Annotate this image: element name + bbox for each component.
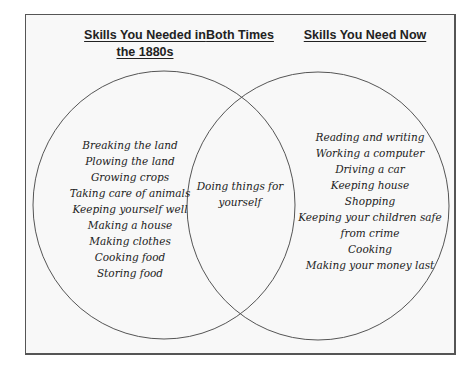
list-item: Cooking	[295, 241, 445, 257]
list-item: Keeping house	[295, 177, 445, 193]
list-item: Keeping your children safe	[295, 209, 445, 225]
list-item: Doing things for	[190, 178, 290, 194]
list-item: Storing food	[40, 265, 220, 281]
list-both-times: Doing things for yourself	[190, 178, 290, 210]
list-item: Cooking food	[40, 249, 220, 265]
list-now: Reading and writing Working a computer D…	[295, 129, 445, 273]
list-item: Breaking the land	[40, 137, 220, 153]
list-item: Working a computer	[295, 145, 445, 161]
list-item: Reading and writing	[295, 129, 445, 145]
list-item: Driving a car	[295, 161, 445, 177]
list-item: from crime	[295, 225, 445, 241]
list-item: Making your money last	[295, 257, 445, 273]
list-item: Plowing the land	[40, 153, 220, 169]
list-item: Making clothes	[40, 233, 220, 249]
list-item: Making a house	[40, 217, 220, 233]
list-item: yourself	[190, 194, 290, 210]
list-item: Shopping	[295, 193, 445, 209]
